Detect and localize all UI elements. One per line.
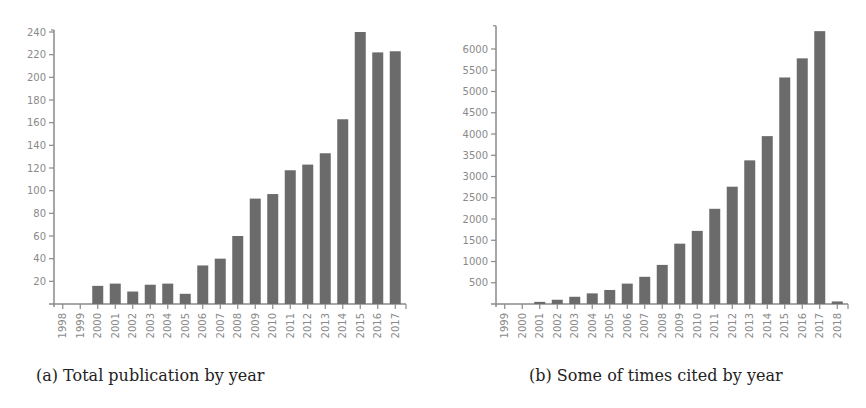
bar-2010 bbox=[267, 194, 278, 304]
x-tick-label: 2009 bbox=[674, 313, 685, 338]
x-tick-label: 2006 bbox=[622, 313, 633, 338]
bar-2007 bbox=[639, 277, 650, 304]
y-tick-label: 2000 bbox=[463, 214, 488, 225]
x-tick-label: 2012 bbox=[727, 313, 738, 338]
bar-2001 bbox=[534, 302, 545, 304]
bar-2000 bbox=[92, 286, 103, 304]
x-tick-label: 2004 bbox=[162, 313, 173, 338]
bar-2009 bbox=[250, 199, 261, 304]
bar-2008 bbox=[232, 236, 243, 304]
bar-2009 bbox=[674, 244, 685, 304]
y-tick-label: 6000 bbox=[463, 44, 488, 55]
x-tick-label: 2016 bbox=[797, 313, 808, 338]
x-tick-label: 2003 bbox=[145, 313, 156, 338]
y-tick-label: 200 bbox=[27, 72, 46, 83]
bar-2014 bbox=[762, 136, 773, 304]
bar-2010 bbox=[692, 231, 703, 304]
caption-b: (b) Some of times cited by year bbox=[529, 366, 783, 385]
y-tick-label: 500 bbox=[469, 277, 488, 288]
x-tick-label: 1999 bbox=[75, 313, 86, 338]
x-tick-label: 2000 bbox=[517, 313, 528, 338]
y-tick-label: 5500 bbox=[463, 65, 488, 76]
x-tick-label: 1999 bbox=[499, 313, 510, 338]
x-tick-label: 2010 bbox=[267, 313, 278, 338]
x-tick-label: 2013 bbox=[744, 313, 755, 338]
x-tick-label: 2006 bbox=[197, 313, 208, 338]
x-tick-label: 2010 bbox=[692, 313, 703, 338]
bar-2017 bbox=[390, 51, 401, 304]
x-tick-label: 2015 bbox=[355, 313, 366, 338]
y-tick-label: 20 bbox=[33, 276, 46, 287]
x-tick-label: 2011 bbox=[285, 313, 296, 338]
x-tick-label: 2017 bbox=[390, 313, 401, 338]
x-tick-label: 2014 bbox=[337, 313, 348, 338]
x-tick-label: 2015 bbox=[779, 313, 790, 338]
bar-2016 bbox=[372, 52, 383, 304]
y-tick-label: 1000 bbox=[463, 256, 488, 267]
y-tick-label: 3500 bbox=[463, 150, 488, 161]
y-tick-label: 240 bbox=[27, 27, 46, 38]
y-tick-label: 140 bbox=[27, 140, 46, 151]
x-tick-label: 2005 bbox=[604, 313, 615, 338]
x-tick-label: 1998 bbox=[57, 313, 68, 338]
y-tick-label: 4000 bbox=[463, 129, 488, 140]
x-tick-label: 2017 bbox=[814, 313, 825, 338]
x-tick-label: 2002 bbox=[127, 313, 138, 338]
x-tick-label: 2002 bbox=[552, 313, 563, 338]
y-tick-label: 3000 bbox=[463, 171, 488, 182]
x-tick-label: 2008 bbox=[657, 313, 668, 338]
x-tick-label: 2003 bbox=[569, 313, 580, 338]
bar-chart-times-cited: 5001000150020002500300035004000450050005… bbox=[436, 0, 866, 360]
y-tick-label: 180 bbox=[27, 95, 46, 106]
bar-2003 bbox=[569, 297, 580, 304]
y-tick-label: 4500 bbox=[463, 107, 488, 118]
y-tick-label: 160 bbox=[27, 117, 46, 128]
chart-panel-a: 2040608010012014016018020022024019981999… bbox=[0, 0, 430, 360]
x-tick-label: 2008 bbox=[232, 313, 243, 338]
bar-2016 bbox=[797, 58, 808, 304]
x-tick-label: 2012 bbox=[302, 313, 313, 338]
bar-2018 bbox=[832, 301, 843, 304]
bar-2017 bbox=[814, 31, 825, 304]
bar-2013 bbox=[744, 160, 755, 304]
bar-2008 bbox=[657, 265, 668, 304]
y-tick-label: 120 bbox=[27, 163, 46, 174]
x-tick-label: 2009 bbox=[250, 313, 261, 338]
y-tick-label: 60 bbox=[33, 231, 46, 242]
bar-2011 bbox=[709, 209, 720, 304]
caption-a: (a) Total publication by year bbox=[36, 366, 265, 385]
y-tick-label: 40 bbox=[33, 253, 46, 264]
bar-2012 bbox=[302, 165, 313, 304]
y-tick-label: 2500 bbox=[463, 192, 488, 203]
bar-2007 bbox=[215, 259, 226, 304]
bar-2006 bbox=[197, 265, 208, 304]
bar-2012 bbox=[727, 187, 738, 304]
x-tick-label: 2001 bbox=[534, 313, 545, 338]
x-tick-label: 2016 bbox=[372, 313, 383, 338]
x-tick-label: 2007 bbox=[215, 313, 226, 338]
x-tick-label: 2018 bbox=[832, 313, 843, 338]
bar-2013 bbox=[320, 153, 331, 304]
x-tick-label: 2001 bbox=[110, 313, 121, 338]
x-tick-label: 2000 bbox=[92, 313, 103, 338]
x-tick-label: 2005 bbox=[180, 313, 191, 338]
y-tick-label: 1500 bbox=[463, 235, 488, 246]
bar-2014 bbox=[337, 119, 348, 304]
y-tick-label: 220 bbox=[27, 49, 46, 60]
bar-2002 bbox=[127, 292, 138, 304]
y-tick-label: 80 bbox=[33, 208, 46, 219]
y-tick-label: 100 bbox=[27, 185, 46, 196]
bar-2011 bbox=[285, 170, 296, 304]
x-tick-label: 2007 bbox=[639, 313, 650, 338]
bar-2003 bbox=[145, 285, 156, 304]
x-tick-label: 2013 bbox=[320, 313, 331, 338]
bar-2015 bbox=[779, 77, 790, 304]
bar-2001 bbox=[110, 284, 121, 304]
bar-chart-total-publications: 2040608010012014016018020022024019981999… bbox=[0, 0, 430, 360]
y-tick-label: 5000 bbox=[463, 86, 488, 97]
x-tick-label: 2011 bbox=[709, 313, 720, 338]
bar-2006 bbox=[622, 284, 633, 304]
bar-2004 bbox=[162, 284, 173, 304]
bar-2015 bbox=[355, 32, 366, 304]
x-tick-label: 2014 bbox=[762, 313, 773, 338]
